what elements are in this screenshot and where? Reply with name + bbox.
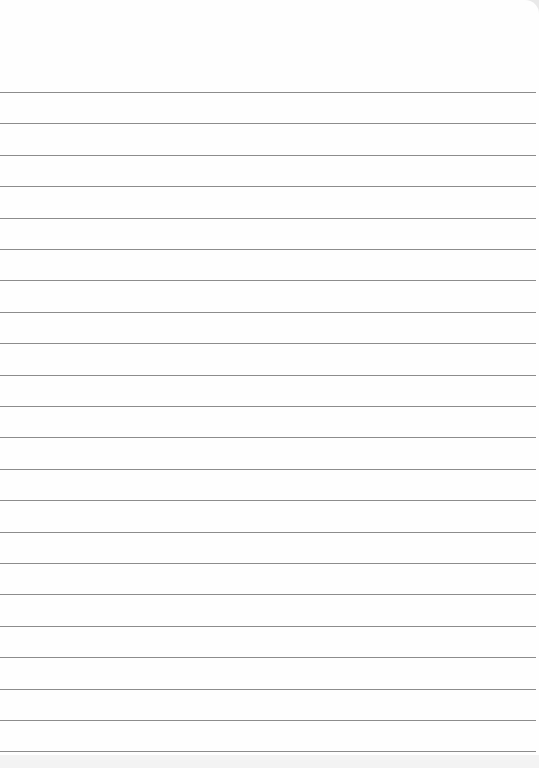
ruled-line	[0, 406, 536, 407]
ruled-line	[0, 626, 536, 627]
ruled-line	[0, 343, 536, 344]
ruled-line	[0, 249, 536, 250]
ruled-line	[0, 532, 536, 533]
paper-bottom-edge	[0, 755, 539, 768]
lined-paper	[0, 0, 539, 768]
ruled-line	[0, 218, 536, 219]
ruled-line	[0, 312, 536, 313]
ruled-line	[0, 375, 536, 376]
ruled-line	[0, 92, 536, 93]
ruled-line	[0, 123, 536, 124]
ruled-line	[0, 155, 536, 156]
ruled-line	[0, 720, 536, 721]
ruled-line	[0, 186, 536, 187]
ruled-line	[0, 280, 536, 281]
ruled-line	[0, 563, 536, 564]
ruled-line	[0, 751, 536, 752]
ruled-line	[0, 437, 536, 438]
ruled-line	[0, 500, 536, 501]
ruled-line	[0, 469, 536, 470]
ruled-line	[0, 594, 536, 595]
ruled-line	[0, 657, 536, 658]
ruled-line	[0, 689, 536, 690]
